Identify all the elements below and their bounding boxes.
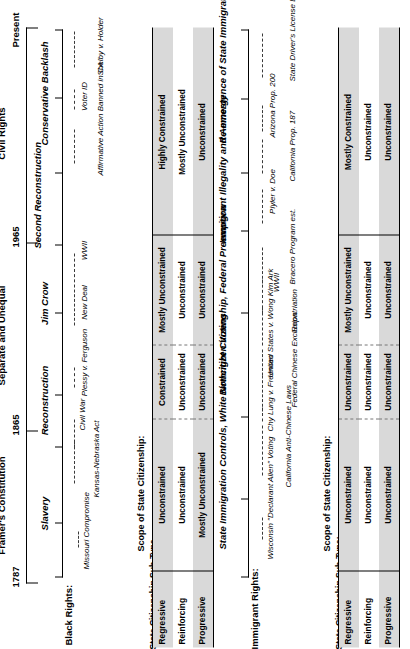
table-immigrant-cell-regressive-p2b: Mostly Unconstrained	[339, 235, 359, 345]
black-event-leader-4	[74, 367, 75, 387]
table-immigrant-cell-progressive-p3: Unconstrained	[379, 29, 399, 235]
black-event-leader-7	[74, 129, 75, 163]
immigrant-era-tick-1	[241, 498, 249, 499]
black-event-leader-5	[74, 289, 75, 325]
table-immigrant-rights: Regressive Unconstrained Unconstrained M…	[338, 27, 400, 647]
black-era-tick-4	[55, 312, 63, 313]
immigrant-event-leader-1	[262, 517, 263, 539]
table-black-row-regressive-label: Regressive	[153, 571, 173, 647]
black-era-tick-5	[55, 244, 63, 245]
immigrant-era-tick-6	[241, 98, 249, 99]
black-era-tick-1	[55, 522, 63, 523]
table-black-scope-header: Scope of State Citizenship:	[136, 435, 146, 551]
immigrant-rights-row-label: Immigrant Rights:	[250, 568, 261, 649]
immigrant-era-tick-2	[241, 416, 249, 417]
immigrant-event-leader-7	[262, 279, 263, 313]
table-black-row-regressive: Regressive Unconstrained Constrained Mos…	[153, 27, 173, 647]
table-black-cell-regressive-p2a: Constrained	[153, 345, 173, 419]
black-baseline-cap-left	[55, 576, 63, 577]
black-era-label-second-reconstruction: Second Reconstruction	[33, 158, 44, 248]
black-event-leader-8	[74, 89, 75, 109]
immigrant-era-tick-5	[241, 172, 249, 173]
immigrant-era-label-birthright: Birthright Citizenship, Federal Preempti…	[218, 275, 229, 395]
table-immigrant-row-reinforcing: Reinforcing Unconstrained Unconstrained …	[359, 27, 379, 647]
table-black-rights: Regressive Unconstrained Constrained Mos…	[152, 27, 214, 647]
table-black-cell-progressive-p2b: Unconstrained	[193, 235, 213, 345]
black-rights-baseline	[62, 29, 63, 577]
table-black-cell-regressive-p1: Unconstrained	[153, 419, 173, 571]
table-black-cell-reinforcing-p2b: Unconstrained	[173, 235, 193, 345]
immigrant-event-leader-5	[262, 349, 263, 375]
black-event-voter-id: Voter ID	[80, 71, 89, 121]
immigrant-era-reemergence-text: Re-emergence of State Immigration Law	[217, 0, 228, 143]
period-3-label: 3rd Period Civil Rights	[0, 63, 7, 203]
immigrant-event-wisconsin-declarant-alien-voting: Wisconsin "Declarant Alien" Voting	[266, 489, 275, 559]
axis-tick-present	[26, 27, 38, 28]
axis-tick-1787	[26, 582, 38, 583]
period-2-label: 2nd Period Separate and Unequal	[0, 265, 7, 405]
table-black-row-progressive: Progressive Mostly Unconstrained Unconst…	[193, 27, 213, 647]
black-event-leader-1	[78, 531, 79, 547]
table-immigrant-cell-reinforcing-p3: Unconstrained	[359, 29, 379, 235]
table-black-row-reinforcing: Reinforcing Unconstrained Unconstrained …	[173, 27, 193, 647]
table-black-cell-regressive-p2b: Mostly Unconstrained	[153, 235, 173, 345]
table-immigrant-cell-progressive-p1: Unconstrained	[379, 419, 399, 571]
immigrant-event-federal-chinese-exclusion: Federal Chinese Exclusion	[290, 341, 299, 407]
immigrant-event-california-anti-chinese-laws: California Anti-Chinese Laws	[284, 415, 293, 487]
table-black-cell-progressive-p2a: Unconstrained	[193, 345, 213, 419]
table-immigrant-row-regressive-label: Regressive	[339, 571, 359, 647]
year-label-1965: 1965	[11, 226, 22, 247]
immigrant-event-leader-8	[262, 247, 263, 283]
table-immigrant-cell-progressive-p2a: Unconstrained	[379, 345, 399, 419]
period-1-sub: Framer's Constitution	[0, 456, 7, 554]
period-2-sub: Separate and Unequal	[0, 285, 7, 385]
table-immigrant-cell-regressive-p1: Unconstrained	[339, 419, 359, 571]
immigrant-era-label-illegality-amnesty: Immigrant Illegality and Amnesty	[218, 141, 229, 243]
table-black-row-progressive-label: Progressive	[193, 571, 213, 647]
table-immigrant-row-progressive-label: Progressive	[379, 571, 399, 647]
immigrant-event-chy-lung-v-freeman: Chy Lung v. Freeman	[266, 369, 275, 431]
year-label-present: Present	[11, 12, 22, 47]
black-event-shelby-v-holder: Shelby v. Holder	[96, 19, 105, 75]
immigrant-event-leader-4	[262, 375, 263, 411]
table-black-cell-progressive-p3: Unconstrained	[193, 29, 213, 235]
immigrant-event-leader-2	[262, 425, 263, 475]
black-event-wwii: WWII	[80, 225, 89, 275]
black-era-tick-6	[55, 172, 63, 173]
black-era-tick-2	[55, 446, 63, 447]
immigrant-baseline-cap-left	[241, 576, 249, 577]
black-era-label-reconstruction: Reconstruction	[40, 350, 51, 450]
main-timeline-axis	[26, 27, 27, 583]
year-label-1787: 1787	[11, 566, 22, 587]
table-immigrant-cell-reinforcing-p2a: Unconstrained	[359, 345, 379, 419]
black-event-leader-3	[74, 419, 75, 447]
immigrant-era-tick-4	[241, 230, 249, 231]
immigrant-event-california-prop-187: California Prop. 187	[288, 117, 297, 181]
immigrant-event-leader-11	[262, 105, 263, 131]
immigrant-rights-baseline	[248, 29, 249, 577]
black-event-plessy-v-ferguson: Plessy v. Ferguson	[80, 327, 89, 397]
immigrant-event-leader-9	[262, 189, 263, 223]
immigrant-era-tick-3	[241, 312, 249, 313]
black-rights-row-label: Black Rights:	[64, 584, 75, 645]
table-black-cell-progressive-p1: Mostly Unconstrained	[193, 419, 213, 571]
immigrant-event-leader-10	[262, 139, 263, 173]
black-era-label-conservative-backlash: Conservative Backlash	[40, 23, 51, 163]
table-immigrant-cell-reinforcing-p2b: Unconstrained	[359, 235, 379, 345]
table-immigrant-cell-progressive-p2b: Unconstrained	[379, 235, 399, 345]
year-label-1865: 1865	[11, 414, 22, 435]
black-event-kansas-nebraska-act: Kansas-Nebraska Act	[92, 427, 101, 497]
immigrant-event-leader-12	[262, 33, 263, 77]
black-event-missouri-compromise: Missouri Compromise	[82, 499, 91, 569]
table-immigrant-cell-reinforcing-p1: Unconstrained	[359, 419, 379, 571]
immigrant-event-bracero-program-est: Bracero Program est.	[288, 207, 297, 285]
immigrant-era-label-state-controls: State Immigration Controls, White Noncit…	[218, 419, 229, 549]
black-era-tick-3	[55, 394, 63, 395]
immigrant-event-wwii: WWII	[272, 257, 281, 307]
table-immigrant-row-regressive: Regressive Unconstrained Unconstrained M…	[339, 27, 359, 647]
immigrant-event-repatriation: Repatriation	[290, 279, 299, 341]
black-era-label-slavery: Slavery	[40, 473, 51, 553]
immigrant-event-state-drivers-license-laws: State Driver's License Laws	[288, 9, 297, 81]
